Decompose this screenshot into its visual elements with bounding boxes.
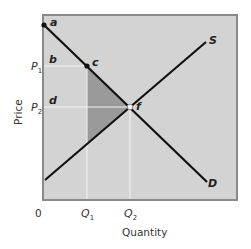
point-c-label: c [92,57,99,68]
supply-label: S [209,35,217,46]
p1-tick-label: P1 [31,61,42,75]
point-a-marker [41,22,46,27]
point-a-label: a [50,17,57,28]
region-b-label: b [49,54,57,65]
p2-tick-label: P2 [31,102,42,116]
origin-label: 0 [35,208,42,219]
q2-tick-label: Q2 [124,208,137,222]
point-f-label: f [136,101,141,112]
y-axis-title: Price [13,99,24,125]
region-d-label: d [49,95,57,106]
point-f-marker [127,104,133,110]
point-c-marker [84,63,89,68]
demand-label: D [208,178,217,189]
x-axis-title: Quantity [122,227,167,238]
q1-tick-label: Q1 [81,208,94,222]
